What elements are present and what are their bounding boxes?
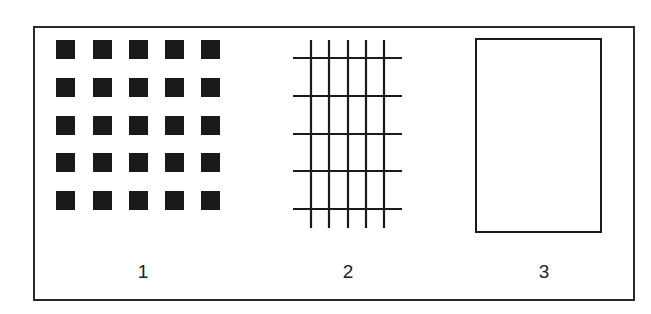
figure-art	[0, 0, 651, 314]
square-dot	[165, 116, 184, 135]
square-dot	[165, 153, 184, 172]
square-dot	[56, 116, 75, 135]
panel-2-label: 2	[343, 262, 354, 281]
square-dot	[93, 191, 112, 210]
square-dot	[56, 191, 75, 210]
square-dot	[165, 78, 184, 97]
square-dot	[129, 153, 148, 172]
panel-3-label: 3	[539, 262, 550, 281]
square-dot	[165, 191, 184, 210]
square-dot	[129, 40, 148, 59]
square-dot	[56, 78, 75, 97]
square-dot	[201, 40, 220, 59]
square-dot	[93, 153, 112, 172]
square-dot	[93, 40, 112, 59]
square-dot	[129, 191, 148, 210]
panel-3-rectangle	[476, 39, 601, 232]
square-dot	[165, 40, 184, 59]
square-dot	[93, 78, 112, 97]
square-dot	[201, 116, 220, 135]
square-dot	[56, 153, 75, 172]
panel-2-line-grid	[293, 40, 402, 228]
square-dot	[93, 116, 112, 135]
panel-1-label: 1	[138, 262, 149, 281]
square-dot	[201, 78, 220, 97]
square-dot	[129, 116, 148, 135]
square-dot	[56, 40, 75, 59]
square-dot	[201, 153, 220, 172]
square-dot	[129, 78, 148, 97]
square-dot	[201, 191, 220, 210]
panel-1-square-array	[56, 40, 220, 210]
